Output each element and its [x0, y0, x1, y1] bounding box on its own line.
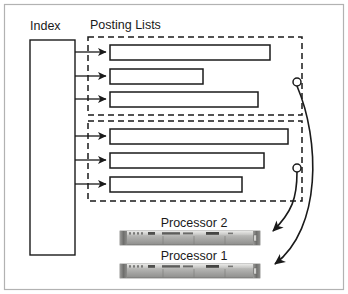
index-block[interactable]: [30, 40, 75, 255]
posting-list-bar-2[interactable]: [110, 69, 203, 84]
processor-2-server-icon[interactable]: [120, 231, 260, 245]
figure-root: Index Posting Lists Processor 2: [0, 0, 348, 294]
posting-list-bar-5[interactable]: [110, 153, 264, 168]
group-top-terminal-circle-icon[interactable]: [293, 78, 301, 86]
posting-list-bar-4[interactable]: [110, 129, 288, 144]
posting-lists-heading: Posting Lists: [90, 18, 161, 32]
posting-list-bar-3[interactable]: [110, 92, 258, 107]
posting-list-bar-1[interactable]: [110, 45, 270, 60]
processor-2-label: Processor 2: [161, 216, 228, 230]
diagram-canvas: Index Posting Lists Processor 2: [0, 0, 348, 294]
processor-1-server-icon[interactable]: [120, 264, 260, 278]
posting-list-bar-6[interactable]: [110, 177, 242, 192]
group-bottom-terminal-circle-icon[interactable]: [293, 164, 301, 172]
index-heading: Index: [30, 19, 61, 33]
processor-1-label: Processor 1: [161, 249, 228, 263]
